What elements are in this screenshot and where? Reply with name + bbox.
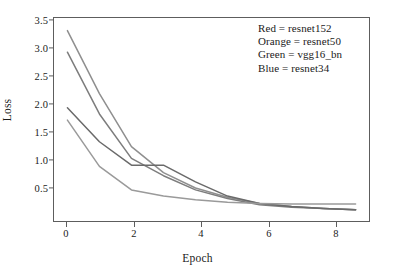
y-tick-label: 1.0	[3, 155, 48, 166]
y-tick-mark	[49, 187, 54, 188]
y-axis-label: Loss	[1, 99, 13, 122]
x-tick-mark	[336, 222, 337, 227]
y-tick-mark	[49, 75, 54, 76]
x-tick-mark	[134, 222, 135, 227]
x-tick-label: 0	[51, 228, 81, 239]
x-tick-mark	[269, 222, 270, 227]
y-tick-label: 2.5	[3, 71, 48, 82]
legend-entry-resnet152: Red = resnet152	[258, 22, 342, 35]
legend: Red = resnet152 Orange = resnet50 Green …	[258, 22, 342, 75]
y-tick-mark	[49, 131, 54, 132]
y-tick-label: 3.5	[3, 15, 48, 26]
y-tick-mark	[49, 19, 54, 20]
series-line-vgg16-bn	[67, 120, 355, 204]
x-tick-label: 8	[321, 228, 351, 239]
legend-entry-resnet50: Orange = resnet50	[258, 35, 342, 48]
legend-entry-resnet34: Blue = resnet34	[258, 62, 342, 75]
y-tick-mark	[49, 103, 54, 104]
x-tick-label: 6	[254, 228, 284, 239]
x-axis-label: Epoch	[0, 252, 395, 264]
loss-curve-figure: 3.5 3.0 2.5 2.0 1.5 1.0 0.5 Loss 0 2 4 6…	[0, 0, 395, 277]
y-tick-mark	[49, 47, 54, 48]
y-tick-mark	[49, 159, 54, 160]
legend-entry-vgg16-bn: Green = vgg16_bn	[258, 48, 342, 61]
y-tick-label: 0.5	[3, 183, 48, 194]
y-tick-label: 1.5	[3, 127, 48, 138]
x-tick-mark	[201, 222, 202, 227]
x-tick-mark	[66, 222, 67, 227]
y-tick-label: 3.0	[3, 43, 48, 54]
x-tick-label: 4	[186, 228, 216, 239]
x-tick-label: 2	[119, 228, 149, 239]
series-line-resnet152	[67, 52, 355, 209]
y-axis: 3.5 3.0 2.5 2.0 1.5 1.0 0.5 Loss	[0, 0, 48, 277]
